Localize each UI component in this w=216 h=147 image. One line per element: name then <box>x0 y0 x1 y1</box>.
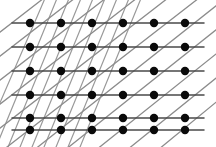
lattice-figure <box>0 0 216 147</box>
lattice-point <box>88 126 96 134</box>
lattice-point <box>119 19 127 27</box>
lattice-point <box>119 67 127 75</box>
lattice-point <box>26 91 34 99</box>
lattice-point <box>181 19 189 27</box>
lattice-point <box>181 126 189 134</box>
lattice-point <box>26 43 34 51</box>
lattice-point <box>119 43 127 51</box>
lattice-point <box>88 19 96 27</box>
lattice-point <box>150 67 158 75</box>
lattice-point <box>26 114 34 122</box>
lattice-point <box>57 19 65 27</box>
lattice-point <box>150 126 158 134</box>
lattice-point <box>150 43 158 51</box>
lattice-point <box>26 67 34 75</box>
lattice-point <box>181 67 189 75</box>
lattice-point <box>57 126 65 134</box>
lattice-point <box>57 67 65 75</box>
lattice-point <box>150 114 158 122</box>
lattice-point <box>181 91 189 99</box>
lattice-point <box>57 114 65 122</box>
lattice-point <box>88 114 96 122</box>
lattice-point <box>181 43 189 51</box>
lattice-point <box>119 114 127 122</box>
lattice-point <box>26 19 34 27</box>
lattice-point <box>119 126 127 134</box>
lattice-point <box>88 67 96 75</box>
lattice-point <box>119 91 127 99</box>
lattice-point <box>26 126 34 134</box>
lattice-point <box>57 43 65 51</box>
lattice-point <box>150 91 158 99</box>
lattice-canvas <box>0 0 216 147</box>
lattice-point <box>88 43 96 51</box>
lattice-point <box>181 114 189 122</box>
lattice-point <box>88 91 96 99</box>
lattice-point <box>57 91 65 99</box>
lattice-point <box>150 19 158 27</box>
